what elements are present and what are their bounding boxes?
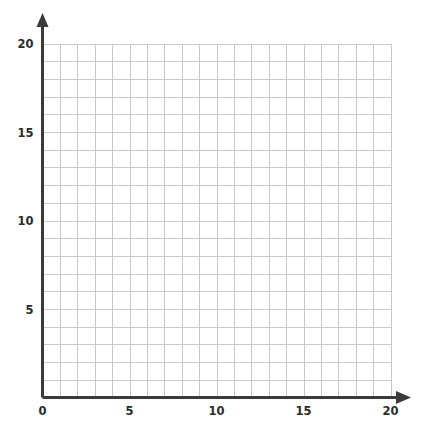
- x-axis-tick-label: 0: [38, 404, 46, 418]
- y-axis-tick-label: 15: [17, 126, 33, 140]
- graph-paper-canvas: 05101520 5101520: [0, 0, 430, 431]
- y-axis-tick-label: 20: [17, 37, 33, 51]
- coordinate-grid-chart: 05101520 5101520: [0, 0, 430, 431]
- x-axis-tick-label: 15: [295, 404, 311, 418]
- y-axis-tick-label: 5: [25, 303, 33, 317]
- y-axis-tick-label: 10: [17, 214, 33, 228]
- x-axis-tick-label: 20: [382, 404, 398, 418]
- x-axis-tick-label: 10: [208, 404, 224, 418]
- chart-background: [0, 0, 430, 431]
- x-axis-tick-label: 5: [125, 404, 133, 418]
